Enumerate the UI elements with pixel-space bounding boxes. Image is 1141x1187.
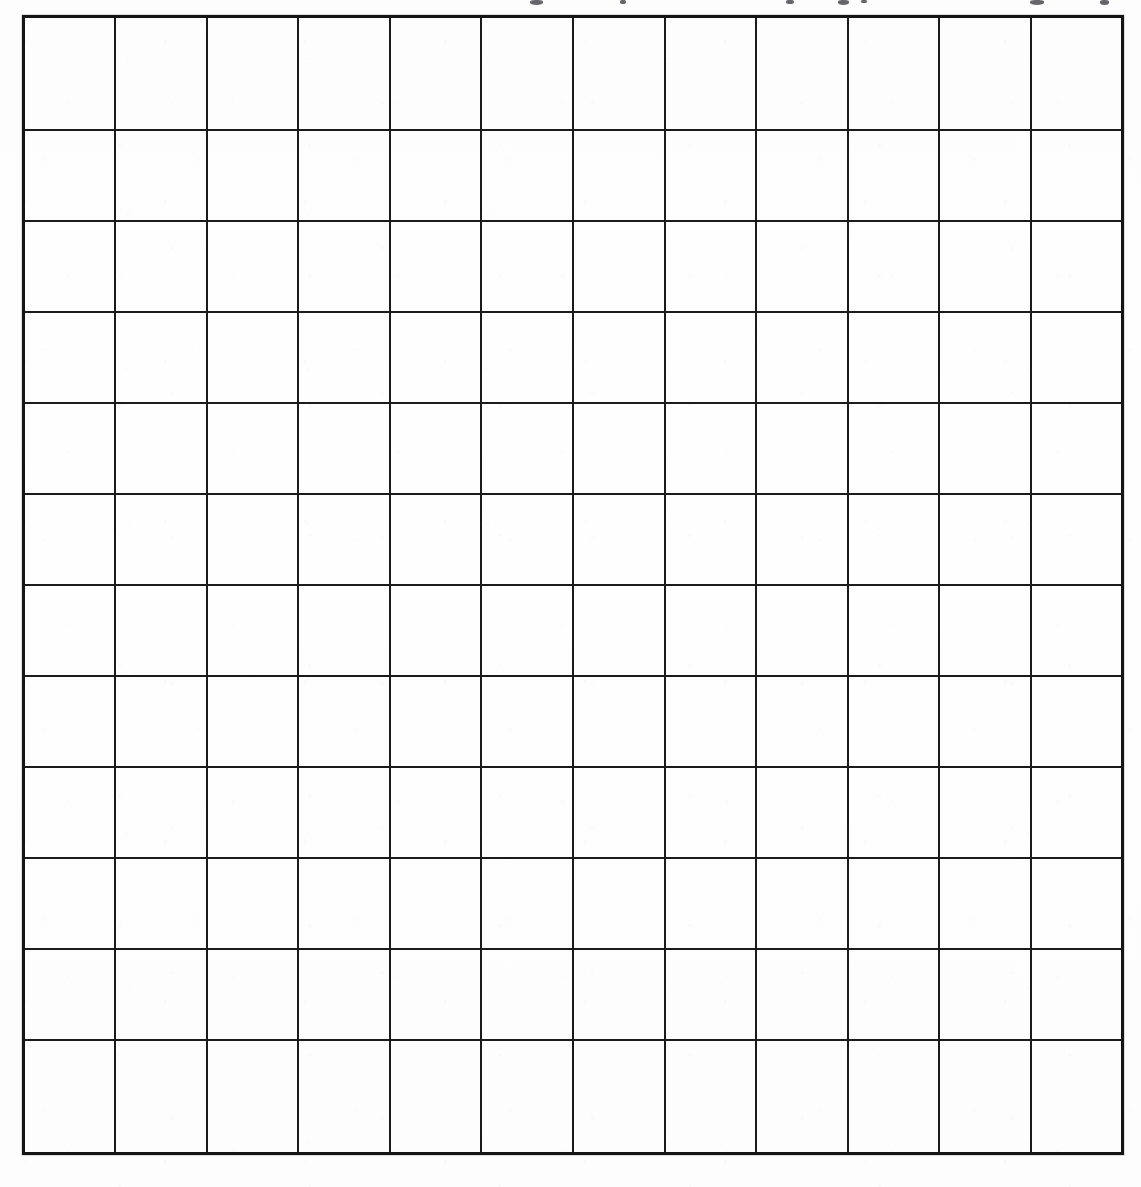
blank-square-grid[interactable] — [22, 15, 1124, 1155]
grid-cell[interactable] — [115, 494, 207, 585]
grid-cell[interactable] — [573, 494, 665, 585]
grid-cell[interactable] — [115, 221, 207, 312]
grid-cell[interactable] — [481, 494, 573, 585]
grid-cell[interactable] — [939, 585, 1031, 676]
grid-cell[interactable] — [756, 1040, 848, 1154]
grid-cell[interactable] — [24, 130, 116, 221]
grid-cell[interactable] — [390, 858, 482, 949]
grid-cell[interactable] — [24, 312, 116, 403]
grid-cell[interactable] — [207, 858, 299, 949]
grid-cell[interactable] — [665, 767, 757, 858]
grid-cell[interactable] — [298, 130, 390, 221]
grid-cell[interactable] — [481, 312, 573, 403]
grid-cell[interactable] — [481, 949, 573, 1040]
grid-cell[interactable] — [24, 858, 116, 949]
grid-cell[interactable] — [115, 858, 207, 949]
grid-cell[interactable] — [756, 767, 848, 858]
grid-cell[interactable] — [298, 1040, 390, 1154]
grid-cell[interactable] — [207, 949, 299, 1040]
grid-cell[interactable] — [24, 585, 116, 676]
grid-cell[interactable] — [481, 767, 573, 858]
grid-cell[interactable] — [24, 403, 116, 494]
grid-cell[interactable] — [24, 17, 116, 131]
grid-cell[interactable] — [207, 403, 299, 494]
grid-cell[interactable] — [939, 312, 1031, 403]
grid-cell[interactable] — [848, 949, 940, 1040]
grid-cell[interactable] — [573, 1040, 665, 1154]
grid-cell[interactable] — [848, 130, 940, 221]
grid-cell[interactable] — [756, 585, 848, 676]
grid-cell[interactable] — [848, 858, 940, 949]
grid-cell[interactable] — [24, 676, 116, 767]
grid-cell[interactable] — [848, 676, 940, 767]
grid-cell[interactable] — [115, 676, 207, 767]
grid-cell[interactable] — [115, 312, 207, 403]
grid-cell[interactable] — [481, 221, 573, 312]
grid-cell[interactable] — [1031, 767, 1123, 858]
grid-cell[interactable] — [481, 585, 573, 676]
grid-cell[interactable] — [756, 858, 848, 949]
grid-cell[interactable] — [24, 949, 116, 1040]
grid-cell[interactable] — [756, 494, 848, 585]
grid-cell[interactable] — [573, 312, 665, 403]
grid-cell[interactable] — [24, 1040, 116, 1154]
grid-cell[interactable] — [390, 949, 482, 1040]
grid-cell[interactable] — [939, 858, 1031, 949]
grid-cell[interactable] — [390, 17, 482, 131]
grid-cell[interactable] — [207, 767, 299, 858]
grid-cell[interactable] — [573, 17, 665, 131]
grid-cell[interactable] — [939, 676, 1031, 767]
grid-cell[interactable] — [481, 858, 573, 949]
grid-cell[interactable] — [1031, 858, 1123, 949]
grid-cell[interactable] — [298, 494, 390, 585]
grid-cell[interactable] — [207, 312, 299, 403]
grid-cell[interactable] — [939, 1040, 1031, 1154]
grid-cell[interactable] — [848, 403, 940, 494]
grid-cell[interactable] — [207, 130, 299, 221]
grid-cell[interactable] — [665, 858, 757, 949]
grid-cell[interactable] — [481, 676, 573, 767]
grid-cell[interactable] — [939, 221, 1031, 312]
grid-cell[interactable] — [298, 676, 390, 767]
grid-cell[interactable] — [756, 403, 848, 494]
grid-cell[interactable] — [756, 949, 848, 1040]
grid-cell[interactable] — [573, 767, 665, 858]
grid-cell[interactable] — [115, 767, 207, 858]
grid-cell[interactable] — [573, 676, 665, 767]
grid-cell[interactable] — [481, 1040, 573, 1154]
grid-cell[interactable] — [665, 403, 757, 494]
grid-cell[interactable] — [115, 17, 207, 131]
grid-cell[interactable] — [1031, 494, 1123, 585]
grid-cell[interactable] — [298, 949, 390, 1040]
grid-cell[interactable] — [207, 17, 299, 131]
grid-cell[interactable] — [207, 1040, 299, 1154]
grid-cell[interactable] — [573, 949, 665, 1040]
grid-cell[interactable] — [756, 221, 848, 312]
grid-cell[interactable] — [665, 130, 757, 221]
grid-cell[interactable] — [481, 403, 573, 494]
grid-cell[interactable] — [573, 585, 665, 676]
grid-cell[interactable] — [665, 17, 757, 131]
grid-cell[interactable] — [481, 130, 573, 221]
grid-cell[interactable] — [756, 676, 848, 767]
grid-cell[interactable] — [207, 585, 299, 676]
grid-cell[interactable] — [756, 130, 848, 221]
grid-cell[interactable] — [115, 1040, 207, 1154]
grid-cell[interactable] — [573, 221, 665, 312]
grid-cell[interactable] — [24, 494, 116, 585]
grid-cell[interactable] — [298, 858, 390, 949]
grid-cell[interactable] — [115, 949, 207, 1040]
grid-cell[interactable] — [665, 585, 757, 676]
grid-cell[interactable] — [390, 312, 482, 403]
grid-cell[interactable] — [756, 17, 848, 131]
grid-cell[interactable] — [939, 494, 1031, 585]
grid-cell[interactable] — [939, 130, 1031, 221]
grid-cell[interactable] — [207, 676, 299, 767]
grid-cell[interactable] — [665, 312, 757, 403]
grid-cell[interactable] — [298, 767, 390, 858]
grid-cell[interactable] — [1031, 403, 1123, 494]
grid-cell[interactable] — [848, 494, 940, 585]
grid-cell[interactable] — [1031, 949, 1123, 1040]
grid-cell[interactable] — [390, 1040, 482, 1154]
grid-cell[interactable] — [573, 130, 665, 221]
